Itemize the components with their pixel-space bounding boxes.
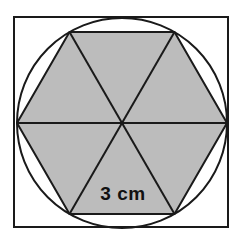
geometry-figure: 3 cm [0,0,244,240]
side-length-label: 3 cm [100,183,145,204]
figure-canvas: 3 cm [0,0,244,240]
